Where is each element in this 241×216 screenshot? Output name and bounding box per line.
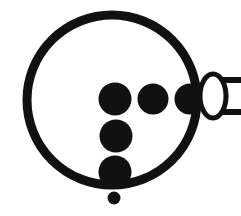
pictogram-graphic xyxy=(0,0,241,216)
dot-2 xyxy=(138,84,169,115)
dot-1 xyxy=(99,83,132,116)
dot-4 xyxy=(100,120,133,153)
figure-canvas: Circular pictogram with dot cluster and … xyxy=(0,0,241,216)
dot-5 xyxy=(99,156,132,189)
dot-6 xyxy=(108,192,121,205)
handle-ellipse-icon xyxy=(200,74,226,118)
